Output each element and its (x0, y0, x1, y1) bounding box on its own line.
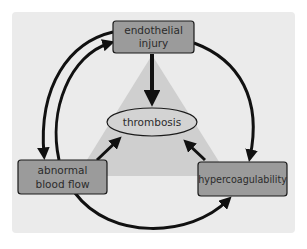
node-abnormal-blood-flow-line2: blood flow (35, 178, 89, 190)
node-thrombosis: thrombosis (107, 108, 197, 136)
node-endothelial-injury-line2: injury (139, 37, 169, 49)
virchow-triad-diagram: endothelial injury abnormal blood flow h… (0, 0, 307, 249)
node-hypercoagulability-label: hypercoagulability (198, 174, 287, 185)
node-abnormal-blood-flow: abnormal blood flow (18, 160, 107, 194)
node-abnormal-blood-flow-line1: abnormal (38, 164, 88, 176)
node-hypercoagulability: hypercoagulability (198, 162, 287, 196)
node-endothelial-injury-line1: endothelial (124, 24, 183, 36)
node-thrombosis-label: thrombosis (123, 116, 181, 128)
node-endothelial-injury: endothelial injury (113, 21, 194, 53)
